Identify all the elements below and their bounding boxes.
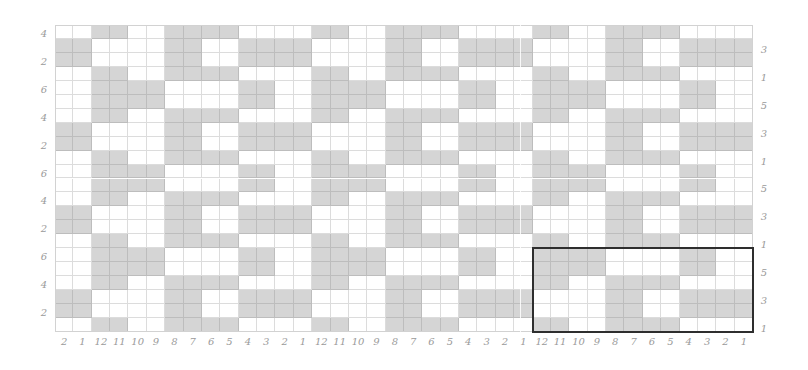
grid-cell bbox=[422, 262, 440, 276]
grid-cell bbox=[239, 192, 257, 206]
grid-cell bbox=[73, 81, 91, 95]
grid-cell bbox=[606, 95, 624, 109]
grid-cell bbox=[257, 165, 275, 179]
grid-cell bbox=[404, 81, 422, 95]
grid-cell bbox=[606, 81, 624, 95]
grid-cell bbox=[477, 165, 495, 179]
grid-cell bbox=[404, 318, 422, 332]
grid-cell bbox=[367, 262, 385, 276]
grid-cell bbox=[680, 81, 698, 95]
grid-cell bbox=[55, 165, 73, 179]
grid-cell bbox=[588, 179, 606, 193]
grid-cell bbox=[477, 25, 495, 39]
grid-cell bbox=[367, 109, 385, 123]
grid-cell bbox=[331, 53, 349, 67]
grid-cell bbox=[698, 67, 716, 81]
grid-cell bbox=[496, 137, 514, 151]
grid-cell bbox=[110, 262, 128, 276]
grid-cell bbox=[92, 220, 110, 234]
grid-cell bbox=[698, 39, 716, 53]
grid-cell bbox=[165, 234, 183, 248]
left-row-label: 2 bbox=[41, 55, 47, 66]
grid-cell bbox=[551, 39, 569, 53]
grid-cell bbox=[220, 81, 238, 95]
grid-cell bbox=[698, 95, 716, 109]
grid-cell bbox=[680, 262, 698, 276]
grid-cell bbox=[312, 25, 330, 39]
grid-cell bbox=[257, 53, 275, 67]
grid-cell bbox=[698, 262, 716, 276]
grid-cell bbox=[110, 234, 128, 248]
grid-cell bbox=[680, 248, 698, 262]
grid-cell bbox=[496, 248, 514, 262]
grid-cell bbox=[386, 67, 404, 81]
grid-cell bbox=[165, 151, 183, 165]
grid-cell bbox=[202, 109, 220, 123]
grid-cell bbox=[698, 165, 716, 179]
right-row-label: 3 bbox=[761, 127, 767, 138]
grid-cell bbox=[128, 39, 146, 53]
grid-cell bbox=[275, 67, 293, 81]
grid-cell bbox=[257, 248, 275, 262]
grid-cell bbox=[202, 304, 220, 318]
grid-cell bbox=[110, 67, 128, 81]
grid-cell bbox=[367, 206, 385, 220]
grid-cell bbox=[294, 95, 312, 109]
grid-cell bbox=[441, 290, 459, 304]
grid-cell bbox=[588, 192, 606, 206]
grid-cell bbox=[606, 67, 624, 81]
grid-cell bbox=[220, 206, 238, 220]
grid-cell bbox=[55, 39, 73, 53]
grid-cell bbox=[680, 192, 698, 206]
grid-cell bbox=[569, 67, 587, 81]
grid-cell bbox=[294, 179, 312, 193]
grid-cell bbox=[606, 137, 624, 151]
grid-cell bbox=[551, 165, 569, 179]
grid-cell bbox=[165, 248, 183, 262]
grid-cell bbox=[588, 304, 606, 318]
column-label: 2 bbox=[722, 336, 728, 347]
grid-cell bbox=[367, 39, 385, 53]
grid-cell bbox=[275, 137, 293, 151]
grid-cell bbox=[147, 276, 165, 290]
grid-cell bbox=[661, 25, 679, 39]
grid-cell bbox=[275, 39, 293, 53]
grid-cell bbox=[624, 192, 642, 206]
grid-cell bbox=[202, 123, 220, 137]
grid-cell bbox=[441, 81, 459, 95]
grid-cell bbox=[165, 165, 183, 179]
grid-cell bbox=[569, 276, 587, 290]
grid-cell bbox=[716, 220, 734, 234]
grid-cell bbox=[386, 151, 404, 165]
grid-cell bbox=[422, 137, 440, 151]
grid-cell bbox=[275, 151, 293, 165]
grid-cell bbox=[386, 81, 404, 95]
grid-cell bbox=[331, 109, 349, 123]
right-row-label: 1 bbox=[761, 323, 767, 334]
grid-cell bbox=[294, 206, 312, 220]
grid-cell bbox=[257, 67, 275, 81]
grid-cell bbox=[624, 304, 642, 318]
grid-cell bbox=[716, 67, 734, 81]
grid-cell bbox=[92, 109, 110, 123]
grid-cell bbox=[275, 248, 293, 262]
grid-cell bbox=[110, 25, 128, 39]
grid-cell bbox=[349, 151, 367, 165]
grid-cell bbox=[661, 53, 679, 67]
grid-cell bbox=[441, 248, 459, 262]
grid-cell bbox=[128, 220, 146, 234]
grid-cell bbox=[661, 276, 679, 290]
grid-cell bbox=[735, 67, 753, 81]
grid-cell bbox=[404, 234, 422, 248]
grid-cell bbox=[533, 165, 551, 179]
grid-cell bbox=[110, 179, 128, 193]
grid-cell bbox=[92, 151, 110, 165]
grid-cell bbox=[349, 276, 367, 290]
grid-cell bbox=[239, 206, 257, 220]
grid-cell bbox=[312, 81, 330, 95]
grid-cell bbox=[73, 290, 91, 304]
grid-cell bbox=[294, 304, 312, 318]
grid-cell bbox=[569, 53, 587, 67]
grid-cell bbox=[514, 290, 532, 304]
grid-cell bbox=[533, 179, 551, 193]
